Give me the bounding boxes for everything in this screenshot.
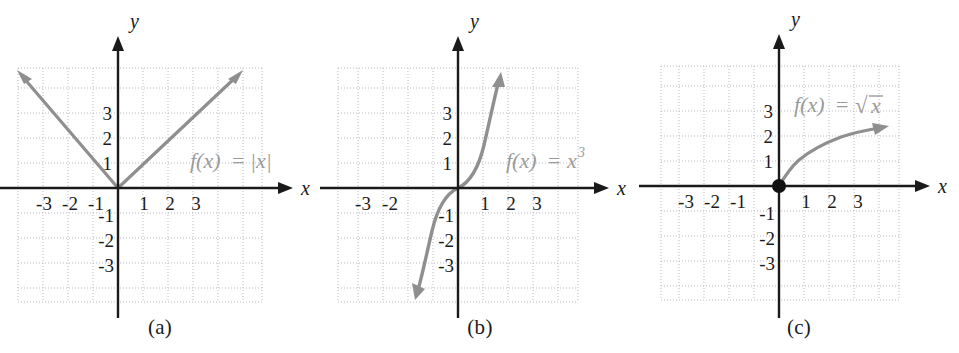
y-tick-a-3: 3: [103, 103, 113, 124]
x-tick-c--3: -3: [678, 191, 694, 212]
x-tick-a--3: -3: [36, 193, 52, 214]
x-axis-label-b: x: [616, 177, 626, 199]
y-tick-c--3: -3: [759, 253, 775, 274]
y-tick-a-2: 2: [103, 128, 113, 149]
function-label-b-equals: =: [548, 148, 560, 173]
function-label-c-expr: x: [870, 93, 881, 118]
function-label-b: f(x) = x 3: [506, 145, 585, 173]
function-label-b-expr: x: [566, 148, 577, 173]
plot-c: x y -3 -2 -1 1 2 3 3 2 1 -1 -2 -3 f(x) =: [639, 0, 959, 318]
radical-icon: √: [855, 93, 868, 118]
y-tick-a-1: 1: [103, 153, 113, 174]
y-tick-b--1: -1: [438, 205, 454, 226]
x-tick-c--1: -1: [730, 191, 746, 212]
x-axis-label-c: x: [937, 175, 947, 197]
function-label-b-exponent: 3: [577, 145, 585, 160]
x-tick-b--3: -3: [355, 193, 371, 214]
x-tick-b-3: 3: [532, 193, 542, 214]
y-tick-b-3: 3: [443, 103, 453, 124]
y-tick-b--2: -2: [438, 230, 454, 251]
caption-b: (b): [320, 315, 640, 340]
y-tick-a--2: -2: [98, 230, 114, 251]
x-tick-b--2: -2: [382, 193, 398, 214]
y-tick-c--2: -2: [759, 228, 775, 249]
function-label-c-equals: =: [836, 92, 848, 117]
function-label-a-equals: =: [232, 148, 244, 173]
plot-b: x y -3 -2 1 2 3 3 2 1 -1 -2 -3 f(x) = x: [320, 0, 640, 318]
function-label-a: f(x) = |x|: [190, 148, 272, 173]
y-tick-a--1: -1: [98, 205, 114, 226]
grid-a: [18, 68, 262, 302]
axes-b: [320, 36, 609, 318]
x-tick-a-2: 2: [165, 193, 175, 214]
figure-row: x y -3 -2 -1 1 2 3 3 2 1 -1 -2 -3: [0, 0, 959, 353]
x-tick-b-2: 2: [506, 193, 516, 214]
panel-a: x y -3 -2 -1 1 2 3 3 2 1 -1 -2 -3: [0, 0, 320, 353]
caption-c: (c): [639, 315, 959, 340]
y-tick-c-3: 3: [764, 101, 774, 122]
y-tick-b-1: 1: [443, 153, 453, 174]
x-tick-c-1: 1: [801, 191, 811, 212]
panel-b: x y -3 -2 1 2 3 3 2 1 -1 -2 -3 f(x) = x: [320, 0, 640, 353]
function-label-c: f(x) = √ x: [794, 92, 883, 118]
y-tick-c-1: 1: [764, 151, 774, 172]
y-tick-a--3: -3: [98, 255, 114, 276]
y-tick-b-2: 2: [443, 128, 453, 149]
plot-a: x y -3 -2 -1 1 2 3 3 2 1 -1 -2 -3: [0, 0, 320, 318]
axes-a: [0, 36, 293, 318]
x-tick-a-3: 3: [191, 193, 201, 214]
y-tick-c--1: -1: [759, 203, 775, 224]
curve-sqrt-c: [779, 123, 889, 186]
y-tick-b--3: -3: [438, 255, 454, 276]
function-label-a-fx: f(x): [190, 148, 221, 173]
x-axis-label-a: x: [300, 177, 310, 199]
origin-point-marker-c: [772, 179, 786, 193]
function-label-a-expr: |x|: [250, 148, 272, 173]
y-axis-label-c: y: [789, 8, 800, 31]
x-tick-c--2: -2: [704, 191, 720, 212]
y-axis-label-a: y: [128, 10, 139, 33]
x-tick-c-3: 3: [853, 191, 863, 212]
x-tick-c-2: 2: [827, 191, 837, 212]
x-tick-a--2: -2: [62, 193, 78, 214]
function-label-b-fx: f(x): [506, 148, 537, 173]
panel-c: x y -3 -2 -1 1 2 3 3 2 1 -1 -2 -3 f(x) =: [639, 0, 959, 353]
function-label-c-fx: f(x): [794, 92, 825, 117]
x-tick-a-1: 1: [139, 193, 149, 214]
x-tick-b-1: 1: [480, 193, 490, 214]
y-axis-label-b: y: [468, 10, 479, 33]
caption-a: (a): [0, 315, 320, 340]
y-tick-c-2: 2: [764, 126, 774, 147]
